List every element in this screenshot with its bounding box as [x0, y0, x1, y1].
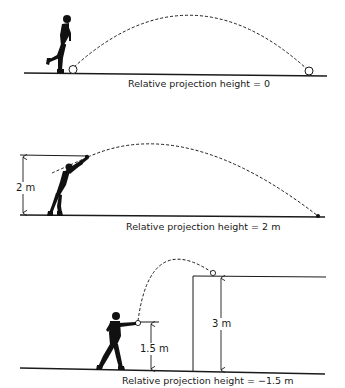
ground-line: [20, 368, 325, 374]
dimension-label-3m: 3 m: [212, 318, 231, 329]
panel-3: 1.5 m 3 m Relative projection height = −…: [20, 259, 326, 386]
thrower-figure: [47, 157, 88, 216]
panel-1: Relative projection height = 0: [24, 15, 327, 89]
dimension-label-1.5m: 1.5 m: [140, 343, 169, 354]
ground-line: [20, 215, 325, 217]
ball-landing: [210, 270, 215, 275]
ball-landing: [305, 67, 313, 75]
kicker-figure: [46, 15, 71, 73]
panel-2-caption: Relative projection height = 2 m: [126, 221, 280, 232]
trajectory-arc: [74, 15, 308, 70]
ball-start: [69, 66, 77, 74]
panel-1-caption: Relative projection height = 0: [128, 78, 270, 89]
trajectory-arc: [88, 144, 318, 216]
ball-landing: [316, 214, 320, 218]
dimension-label-2m: 2 m: [16, 182, 35, 193]
trajectory-arc: [138, 259, 213, 321]
ball-start: [135, 320, 140, 325]
thrower-figure: [96, 312, 136, 370]
panel-2: 2 m Relative projection height = 2 m: [14, 144, 325, 232]
projection-height-diagram: Relative projection height = 0 2 m Relat…: [0, 0, 345, 388]
release-height-line: [20, 155, 88, 156]
wall-top: [193, 276, 326, 277]
panel-3-caption: Relative projection height = −1.5 m: [122, 375, 293, 386]
ground-line: [24, 73, 327, 76]
